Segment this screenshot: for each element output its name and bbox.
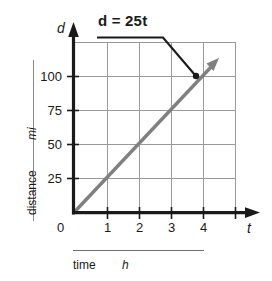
y-axis-variable-label: d — [57, 21, 65, 35]
callout-endpoint-dot — [193, 73, 199, 79]
data-line — [74, 66, 213, 213]
equation-callout-leader — [97, 38, 199, 80]
x-axis-arrowhead — [245, 207, 260, 218]
grid-vertical-lines — [108, 42, 236, 213]
x-axis-unit-h: h — [122, 259, 129, 271]
y-axis — [68, 22, 79, 215]
x-tick-label-1: 1 — [104, 221, 111, 234]
y-axis-unit-mi: mi — [25, 127, 39, 140]
data-line-series — [74, 58, 220, 213]
y-axis-caption-distance: distance — [25, 170, 39, 215]
x-axis-caption-rule — [73, 250, 204, 251]
x-tick-label-4: 4 — [200, 221, 207, 234]
y-tick-label-75: 75 — [24, 104, 62, 117]
x-tick-label-3: 3 — [168, 221, 175, 234]
graph-figure: d = 25t d t 100 75 50 25 0 1 2 3 4 dista… — [0, 0, 272, 281]
y-axis-arrowhead — [68, 22, 79, 37]
x-tick-label-0: 0 — [57, 221, 64, 234]
x-axis-variable-label: t — [247, 221, 251, 235]
x-axis — [72, 207, 260, 218]
y-tick-label-100: 100 — [24, 70, 62, 83]
equation-annotation: d = 25t — [98, 13, 147, 28]
x-axis-caption-time: time — [73, 259, 96, 271]
callout-line — [97, 38, 195, 76]
x-tick-label-2: 2 — [136, 221, 143, 234]
